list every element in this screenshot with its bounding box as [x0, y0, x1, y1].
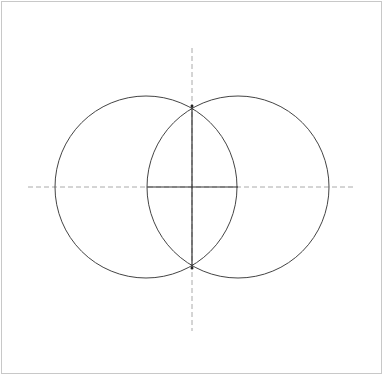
- top-intersection-point: [191, 105, 194, 108]
- bottom-intersection-point: [191, 267, 194, 270]
- diagram-canvas: [0, 0, 385, 378]
